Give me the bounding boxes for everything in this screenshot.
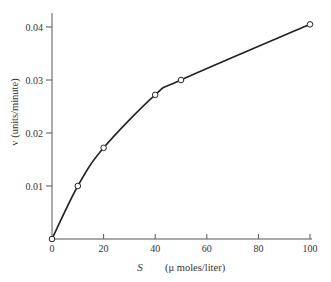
x-tick-label: 40	[150, 243, 160, 254]
x-axis-label: S	[137, 261, 143, 273]
data-point-marker	[152, 92, 158, 98]
ticks: 0204060801000.010.020.030.04	[26, 22, 318, 255]
data-point-marker	[178, 77, 184, 83]
data-curve	[52, 24, 310, 239]
data-point-marker	[49, 236, 55, 242]
data-point-marker	[307, 22, 313, 28]
curve-line	[52, 24, 310, 239]
y-tick-label: 0.03	[26, 75, 44, 86]
x-tick-label: 60	[202, 243, 212, 254]
x-tick-label: 20	[99, 243, 109, 254]
x-tick-label: 0	[50, 243, 55, 254]
x-tick-label: 80	[253, 243, 263, 254]
data-markers	[49, 22, 313, 242]
x-tick-label: 100	[303, 243, 318, 254]
chart: 0204060801000.010.020.030.04 v (units/mi…	[0, 0, 331, 282]
y-tick-label: 0.01	[26, 181, 44, 192]
y-tick-label: 0.02	[26, 128, 44, 139]
data-point-marker	[75, 183, 81, 189]
y-axis-label: v (units/minute)	[9, 78, 21, 146]
data-point-marker	[101, 145, 107, 151]
x-axis-units-label: (μ moles/liter)	[165, 262, 226, 274]
axes	[52, 13, 312, 239]
y-tick-label: 0.04	[26, 22, 44, 33]
